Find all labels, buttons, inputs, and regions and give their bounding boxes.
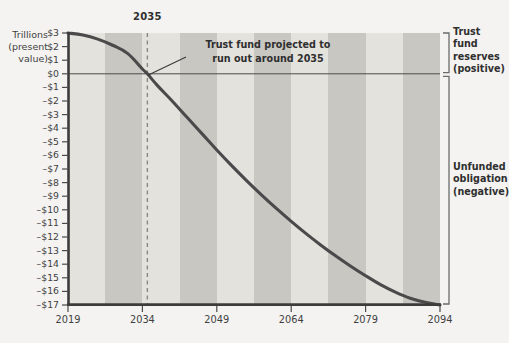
bracket-positive-line-3: (positive) — [453, 63, 499, 75]
bracket-negative — [443, 76, 449, 304]
x-axis-tick-label: 2094 — [428, 315, 453, 325]
annotation-line-2: run out around 2035 — [188, 52, 348, 66]
annotation-line-1: Trust fund projected to — [188, 38, 348, 52]
bracket-label-trust-fund-reserves: Trust fund reserves (positive) — [453, 26, 499, 76]
bracket-negative-line-2: obligation — [453, 173, 499, 185]
bracket-label-unfunded-obligation: Unfunded obligation (negative) — [453, 161, 499, 198]
bracket-positive-line-2: reserves — [453, 51, 499, 63]
x-axis-tick-label: 2079 — [353, 315, 378, 325]
x-axis-tick-label: 2049 — [204, 315, 229, 325]
bracket-negative-line-1: Unfunded — [453, 161, 499, 173]
x-axis-tick-label: 2064 — [279, 315, 304, 325]
x-axis-tick-label: 2034 — [130, 315, 155, 325]
bracket-positive-line-1: Trust fund — [453, 26, 499, 51]
annotation-callout: Trust fund projected to run out around 2… — [188, 38, 348, 65]
annotation-leader-line — [148, 57, 186, 75]
bracket-negative-line-3: (negative) — [453, 186, 499, 198]
x-axis-tick-marks — [68, 306, 440, 312]
bracket-positive — [443, 33, 449, 73]
y-axis-tick-marks — [62, 33, 68, 305]
x-axis-tick-label: 2019 — [56, 315, 81, 325]
